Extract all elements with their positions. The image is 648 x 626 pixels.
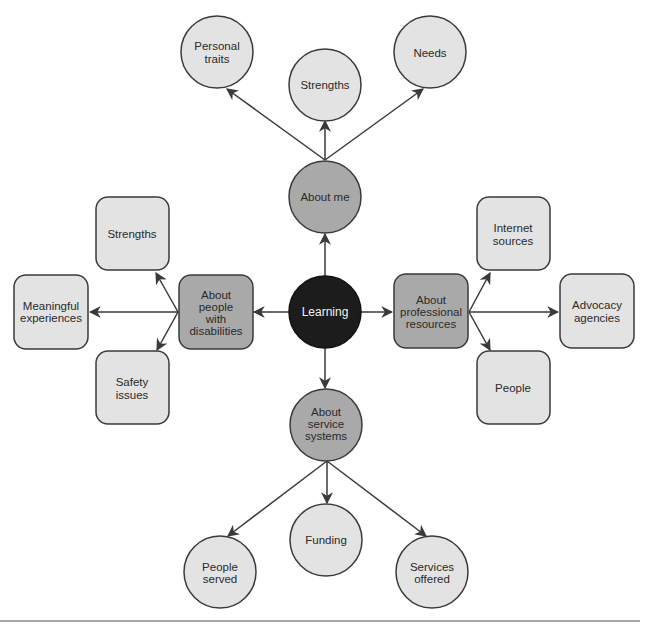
node-label: People [495,382,531,394]
node-internet-sources: Internet sources [477,197,550,270]
node-label: Strengths [300,79,349,91]
node-label: Learning [302,305,349,319]
mind-map-diagram: Learning About me Personal traits Streng… [0,0,648,626]
node-label: Funding [305,534,347,546]
node-label: experiences [20,312,82,324]
node-label: people [199,301,234,313]
node-label: disabilities [189,325,242,337]
node-people-resources: People [477,351,550,424]
edge-about-people-strengths [156,273,178,312]
node-label: Meaningful [23,300,79,312]
node-label: with [205,313,226,325]
node-needs: Needs [394,16,466,88]
node-learning: Learning [289,276,361,348]
edge-about-professional-internet [469,273,490,312]
node-advocacy-agencies: Advocacy agencies [560,274,634,348]
node-label: People [202,561,238,573]
node-strengths-me: Strengths [289,49,361,121]
node-about-professional-resources: About professional resources [394,274,468,348]
node-label: Advocacy [572,299,622,311]
node-label: About me [300,191,349,203]
node-label: agencies [574,312,620,324]
node-about-me: About me [289,161,361,233]
node-services-offered: Services offered [396,536,468,608]
node-label: Safety [116,376,149,388]
node-about-people-with-disabilities: About people with disabilities [179,275,253,349]
node-label: About [311,406,342,418]
node-meaningful-experiences: Meaningful experiences [14,275,88,349]
node-personal-traits: Personal traits [181,16,253,88]
node-label: Strengths [107,228,156,240]
node-label: issues [116,389,149,401]
node-label: Needs [413,47,446,59]
node-about-service-systems: About service systems [290,389,362,461]
edge-about-people-safety [157,312,178,350]
node-label: systems [305,430,347,442]
node-label: sources [493,235,534,247]
node-label: Services [410,561,454,573]
node-label: Internet [494,222,534,234]
node-strengths-people: Strengths [96,197,169,270]
node-label: resources [406,318,457,330]
node-people-served: People served [184,536,256,608]
node-funding: Funding [290,504,362,576]
node-label: offered [414,573,450,585]
node-label: Personal [194,40,239,52]
node-label: served [203,573,238,585]
node-safety-issues: Safety issues [96,351,169,424]
node-label: About [201,289,232,301]
node-label: About [416,294,447,306]
node-label: traits [205,53,230,65]
edge-about-professional-people [469,312,490,350]
node-label: service [308,418,344,430]
node-label: professional [400,306,462,318]
